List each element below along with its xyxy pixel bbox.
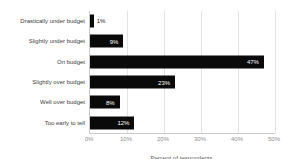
bar-row: 12% (90, 113, 275, 133)
value-label: 12% (117, 120, 134, 126)
bar-row: 1% (90, 11, 275, 31)
category-label: Well over budget (0, 92, 85, 112)
category-axis: Drastically under budgetSlightly under b… (0, 11, 85, 133)
bar: 47% (90, 55, 264, 68)
category-label: Slightly under budget (0, 31, 85, 51)
x-tick-label: 50% (268, 136, 280, 142)
bar-chart-figure: Drastically under budgetSlightly under b… (0, 0, 294, 159)
bar: 8% (90, 96, 120, 109)
value-label: 47% (247, 59, 264, 65)
bar-row: 9% (90, 31, 275, 51)
bar-row: 23% (90, 72, 275, 92)
x-tick-label: 40% (231, 136, 243, 142)
bar-rows: 1%9%47%23%8%12% (90, 11, 275, 133)
value-label: 8% (106, 99, 120, 105)
category-label: Drastically under budget (0, 11, 85, 31)
category-label: Slightly over budget (0, 72, 85, 92)
x-axis: 0%10%20%30%40%50% (89, 136, 274, 144)
bar (90, 15, 94, 28)
x-axis-label-wrap: Percent of respondents (89, 146, 274, 159)
plot-area: 1%9%47%23%8%12% (89, 11, 275, 134)
category-label: Too early to tell (0, 113, 85, 133)
x-tick-label: 30% (194, 136, 206, 142)
x-axis-label: Percent of respondents (150, 155, 212, 159)
value-label: 23% (158, 79, 175, 85)
value-label: 1% (97, 18, 106, 24)
category-label: On budget (0, 52, 85, 72)
bar: 9% (90, 35, 123, 48)
x-tick-label: 10% (120, 136, 132, 142)
bar-row: 8% (90, 92, 275, 112)
bar: 12% (90, 116, 134, 129)
gridline (275, 11, 276, 133)
x-tick-label: 20% (157, 136, 169, 142)
value-label: 9% (110, 38, 124, 44)
bar: 23% (90, 76, 175, 89)
bar-row: 47% (90, 52, 275, 72)
x-tick-label: 0% (85, 136, 94, 142)
